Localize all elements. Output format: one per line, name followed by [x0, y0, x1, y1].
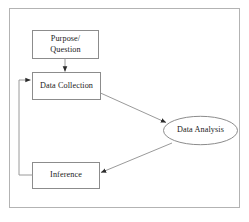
edge-data-analysis-to-inference	[101, 143, 172, 173]
node-shape-inference	[33, 163, 100, 189]
node-shape-data-collection	[33, 73, 101, 100]
node-shape-purpose	[33, 31, 99, 59]
diagram-graphics	[0, 0, 249, 222]
diagram-canvas: Purpose/ Question Data Collection Infere…	[0, 0, 249, 222]
edge-data-collection-to-data-analysis	[101, 93, 167, 123]
edge-inference-to-data-collection-feedback	[19, 80, 33, 175]
node-shape-data-analysis	[164, 116, 238, 144]
